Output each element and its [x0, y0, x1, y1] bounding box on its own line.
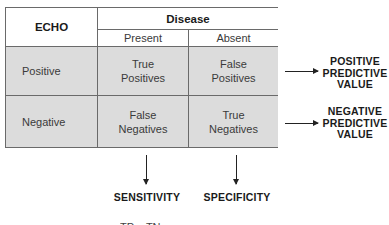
arrow-right-icon — [285, 123, 318, 124]
negative-predictive-value-label: NEGATIVE PREDICTIVE VALUE — [322, 106, 388, 141]
cell-true-negatives: True Negatives — [189, 96, 278, 147]
grid-line — [6, 95, 278, 96]
arrow-right-icon — [285, 71, 318, 72]
cutoff-formula-text: TP TN — [120, 220, 180, 225]
column-group-title: Disease — [98, 8, 278, 29]
grid-line — [97, 29, 278, 30]
label-line: POSITIVE — [322, 56, 388, 68]
row-label-positive: Positive — [6, 47, 97, 95]
sensitivity-label: SENSITIVITY — [106, 192, 188, 204]
row-header-title: ECHO — [6, 8, 97, 46]
cell-true-positives: True Positives — [98, 47, 188, 95]
row-label-negative: Negative — [6, 96, 97, 147]
column-header-present: Present — [98, 30, 188, 46]
arrow-down-icon — [146, 155, 147, 184]
specificity-label: SPECIFICITY — [196, 192, 278, 204]
label-line: NEGATIVE — [322, 106, 388, 118]
arrow-down-icon — [236, 155, 237, 184]
column-header-absent: Absent — [189, 30, 278, 46]
cell-false-positives: False Positives — [189, 47, 278, 95]
grid-line — [6, 46, 278, 47]
label-line: VALUE — [322, 129, 388, 141]
label-line: VALUE — [322, 79, 388, 91]
cell-false-negatives: False Negatives — [98, 96, 188, 147]
positive-predictive-value-label: POSITIVE PREDICTIVE VALUE — [322, 56, 388, 91]
echo-disease-2x2-table: ECHO Disease Present Absent Positive Tru… — [5, 7, 278, 148]
